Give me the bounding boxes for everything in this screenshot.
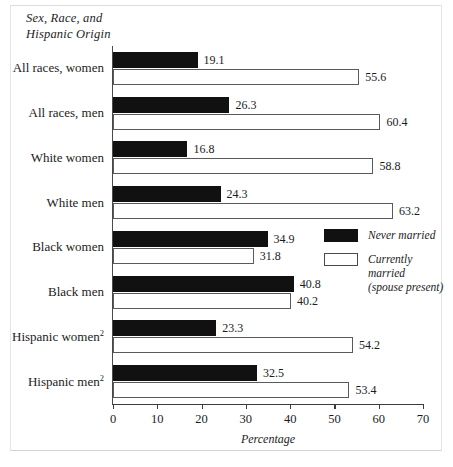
legend-label-currently-married-main: Currently married bbox=[368, 253, 412, 279]
bar-group: Hispanic women223.354.2 bbox=[113, 315, 423, 360]
bar-currently-married bbox=[113, 69, 359, 85]
bar-row: 24.3 bbox=[113, 186, 423, 202]
bar-value-label: 34.9 bbox=[274, 231, 295, 246]
frame-left-border bbox=[10, 5, 11, 451]
bar-currently-married bbox=[113, 203, 393, 219]
bar-value-label: 40.8 bbox=[300, 276, 321, 291]
bar-never-married bbox=[113, 276, 294, 292]
legend-swatch-never-married-icon bbox=[324, 229, 358, 242]
x-axis-tick bbox=[334, 404, 335, 409]
y-axis-title-line-1: Sex, Race, and bbox=[26, 10, 156, 26]
bar-never-married bbox=[113, 231, 268, 247]
legend-item-currently-married: Currently married (spouse present) bbox=[324, 252, 450, 294]
bar-currently-married bbox=[113, 158, 373, 174]
x-axis-tick-label: 30 bbox=[240, 412, 253, 427]
frame-bottom-border bbox=[10, 450, 442, 451]
bar-value-label: 19.1 bbox=[204, 52, 225, 67]
category-label: Hispanic women2 bbox=[12, 329, 104, 345]
bar-row: 55.6 bbox=[113, 69, 423, 85]
category-label: White men bbox=[47, 195, 104, 211]
bar-row: 32.5 bbox=[113, 365, 423, 381]
category-label: Hispanic men2 bbox=[28, 374, 104, 390]
bar-currently-married bbox=[113, 248, 254, 264]
bar-group: All races, women19.155.6 bbox=[113, 46, 423, 91]
legend-label-currently-married: Currently married (spouse present) bbox=[368, 252, 450, 294]
category-label: Black men bbox=[48, 284, 104, 300]
bar-currently-married bbox=[113, 293, 291, 309]
bar-value-label: 53.4 bbox=[355, 383, 376, 398]
category-label: White women bbox=[31, 150, 104, 166]
legend-item-never-married: Never married bbox=[324, 228, 450, 243]
legend-label-never-married: Never married bbox=[368, 228, 450, 242]
legend-swatch-currently-married-icon bbox=[324, 253, 358, 266]
bar-value-label: 24.3 bbox=[227, 187, 248, 202]
bar-never-married bbox=[113, 52, 198, 68]
bar-group: White men24.363.2 bbox=[113, 180, 423, 225]
x-axis-tick-label: 20 bbox=[195, 412, 208, 427]
bar-never-married bbox=[113, 320, 216, 336]
bar-value-label: 26.3 bbox=[235, 97, 256, 112]
bar-currently-married bbox=[113, 337, 353, 353]
y-axis-title-line-2: Hispanic Origin bbox=[26, 26, 156, 42]
bar-never-married bbox=[113, 141, 187, 157]
bar-value-label: 55.6 bbox=[365, 69, 386, 84]
bar-value-label: 60.4 bbox=[386, 114, 407, 129]
category-label: All races, men bbox=[29, 105, 104, 121]
bar-row: 19.1 bbox=[113, 52, 423, 68]
bar-row: 58.8 bbox=[113, 158, 423, 174]
category-footnote-marker: 2 bbox=[100, 328, 104, 338]
bar-row: 23.3 bbox=[113, 320, 423, 336]
bar-group: White women16.858.8 bbox=[113, 136, 423, 181]
x-axis-tick bbox=[379, 404, 380, 409]
x-axis-tick-label: 60 bbox=[372, 412, 385, 427]
bar-value-label: 23.3 bbox=[222, 321, 243, 336]
x-axis-tick bbox=[113, 404, 114, 409]
bar-never-married bbox=[113, 365, 257, 381]
x-axis-tick bbox=[246, 404, 247, 409]
bar-never-married bbox=[113, 97, 229, 113]
bar-value-label: 54.2 bbox=[359, 338, 380, 353]
bar-value-label: 16.8 bbox=[193, 142, 214, 157]
x-axis-line bbox=[112, 404, 424, 405]
bar-row: 63.2 bbox=[113, 203, 423, 219]
x-axis-tick bbox=[423, 404, 424, 409]
x-axis-tick-label: 40 bbox=[284, 412, 297, 427]
category-label: Black women bbox=[32, 239, 104, 255]
x-axis-tick bbox=[290, 404, 291, 409]
x-axis-tick-label: 0 bbox=[110, 412, 116, 427]
category-label: All races, women bbox=[13, 60, 104, 76]
bar-value-label: 32.5 bbox=[263, 366, 284, 381]
figure-chart: Sex, Race, and Hispanic Origin Percentag… bbox=[0, 0, 453, 467]
bar-currently-married bbox=[113, 114, 380, 130]
legend-label-currently-married-sub: (spouse present) bbox=[368, 280, 450, 294]
bar-never-married bbox=[113, 186, 221, 202]
bar-row: 60.4 bbox=[113, 114, 423, 130]
x-axis-tick-label: 50 bbox=[328, 412, 341, 427]
bar-row: 54.2 bbox=[113, 337, 423, 353]
frame-top-border bbox=[10, 5, 442, 6]
bar-value-label: 40.2 bbox=[297, 293, 318, 308]
x-axis-tick bbox=[202, 404, 203, 409]
legend: Never married Currently married (spouse … bbox=[324, 228, 450, 303]
y-axis-title: Sex, Race, and Hispanic Origin bbox=[26, 10, 156, 42]
plot-area: Percentage 010203040506070All races, wom… bbox=[113, 46, 423, 404]
bar-row: 53.4 bbox=[113, 382, 423, 398]
category-footnote-marker: 2 bbox=[100, 372, 104, 382]
bar-value-label: 31.8 bbox=[260, 248, 281, 263]
x-axis-label: Percentage bbox=[113, 432, 423, 447]
bar-value-label: 63.2 bbox=[399, 204, 420, 219]
bar-group: All races, men26.360.4 bbox=[113, 91, 423, 136]
bar-row: 26.3 bbox=[113, 97, 423, 113]
bar-group: Hispanic men232.553.4 bbox=[113, 359, 423, 404]
x-axis-tick-label: 10 bbox=[151, 412, 164, 427]
bar-value-label: 58.8 bbox=[379, 159, 400, 174]
x-axis-tick-label: 70 bbox=[417, 412, 430, 427]
bar-row: 16.8 bbox=[113, 141, 423, 157]
x-axis-tick bbox=[157, 404, 158, 409]
bar-currently-married bbox=[113, 382, 349, 398]
